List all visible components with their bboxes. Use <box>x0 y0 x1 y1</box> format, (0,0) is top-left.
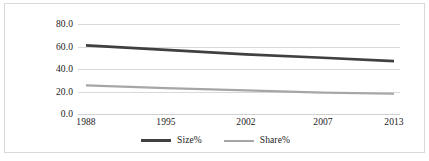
x-axis: 1988 1995 2002 2007 2013 <box>78 118 400 132</box>
legend-label-share: Share% <box>260 136 290 146</box>
legend-item-size[interactable]: Size% <box>141 136 202 146</box>
gridline-0 <box>78 114 400 115</box>
y-tick-label-80: 80.0 <box>29 20 73 30</box>
series-line-share <box>86 85 394 93</box>
x-tick-label-2013: 2013 <box>384 118 403 128</box>
x-tick-label-2007: 2007 <box>313 118 332 128</box>
line-chart-figure: 80.0 60.0 40.0 20.0 0.0 1988 1995 2002 2… <box>0 0 429 161</box>
series-line-size <box>86 45 394 61</box>
legend-label-size: Size% <box>177 136 202 146</box>
plot-area <box>78 24 400 114</box>
series-plot <box>78 24 400 114</box>
y-tick-label-40: 40.0 <box>29 65 73 75</box>
chart-frame: 80.0 60.0 40.0 20.0 0.0 1988 1995 2002 2… <box>4 3 425 153</box>
legend-item-share[interactable]: Share% <box>224 136 290 146</box>
chart-legend: Size% Share% <box>5 136 426 146</box>
y-tick-label-0: 0.0 <box>29 110 73 120</box>
y-axis: 80.0 60.0 40.0 20.0 0.0 <box>25 24 73 114</box>
x-tick-label-1995: 1995 <box>156 118 175 128</box>
x-tick-label-2002: 2002 <box>236 118 255 128</box>
legend-swatch-size-icon <box>141 139 171 142</box>
legend-swatch-share-icon <box>224 140 254 142</box>
x-tick-label-1988: 1988 <box>76 118 95 128</box>
y-tick-label-20: 20.0 <box>29 88 73 98</box>
y-tick-label-60: 60.0 <box>29 43 73 53</box>
